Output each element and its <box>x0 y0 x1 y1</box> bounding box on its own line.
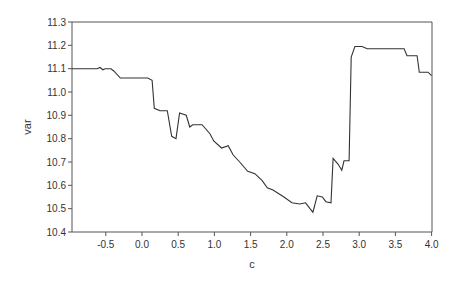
y-tick-label: 11.0 <box>47 87 66 98</box>
y-tick-label: 10.7 <box>47 157 67 168</box>
y-tick-label: 11.3 <box>47 17 66 28</box>
x-axis-ticks: -0.50.00.51.01.52.02.53.03.54.0 <box>97 232 439 250</box>
y-axis-label: var <box>21 119 33 135</box>
x-tick-label: 3.5 <box>388 239 402 250</box>
y-tick-label: 10.5 <box>47 203 67 214</box>
x-axis-label: c <box>249 258 255 270</box>
x-tick-label: 0.0 <box>135 239 149 250</box>
y-axis-ticks: 10.410.510.610.710.810.911.011.111.211.3 <box>47 17 72 238</box>
y-tick-label: 11.1 <box>47 63 66 74</box>
y-tick-label: 10.6 <box>47 180 67 191</box>
data-line <box>72 47 432 213</box>
line-chart: 10.410.510.610.710.810.911.011.111.211.3… <box>0 0 460 285</box>
x-tick-label: 0.5 <box>171 239 185 250</box>
y-tick-label: 10.8 <box>47 133 67 144</box>
x-tick-label: 4.0 <box>425 239 439 250</box>
x-tick-label: -0.5 <box>97 239 115 250</box>
x-tick-label: 1.0 <box>207 239 221 250</box>
y-tick-label: 11.2 <box>47 40 66 51</box>
x-tick-label: 2.5 <box>316 239 330 250</box>
y-tick-label: 10.9 <box>47 110 67 121</box>
x-tick-label: 1.5 <box>244 239 258 250</box>
plot-area <box>72 22 432 232</box>
x-tick-label: 3.0 <box>352 239 366 250</box>
y-tick-label: 10.4 <box>47 227 67 238</box>
x-tick-label: 2.0 <box>280 239 294 250</box>
